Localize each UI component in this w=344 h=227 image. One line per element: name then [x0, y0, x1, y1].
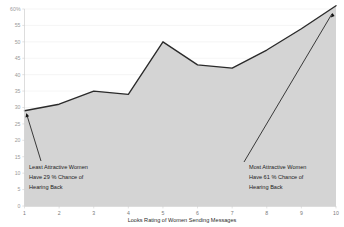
- y-axis-tick-label: 20: [15, 137, 21, 143]
- y-axis-tick-label: 10: [15, 170, 21, 176]
- y-axis-tick-label: 30: [15, 104, 21, 110]
- x-axis-tick-label: 1: [23, 210, 26, 216]
- annotation-left-line-1: Least Attractive Women: [29, 164, 88, 170]
- x-axis-tick-label: 4: [127, 210, 130, 216]
- x-axis-tick-label: 10: [333, 210, 339, 216]
- x-axis-tick-label: 7: [231, 210, 234, 216]
- y-axis-tick-label: 50: [15, 39, 21, 45]
- x-axis-tick-label: 5: [161, 210, 164, 216]
- y-axis-tick-label: 60%: [10, 6, 21, 12]
- y-axis-tick-label: 15: [15, 154, 21, 160]
- annotation-right-line-3: Hearing Back: [249, 184, 283, 190]
- y-axis-tick-label: 25: [15, 121, 21, 127]
- y-axis-tick-label: 35: [15, 88, 21, 94]
- x-axis-tick-label: 6: [196, 210, 199, 216]
- y-axis-tick-label: 0: [18, 203, 21, 209]
- x-axis-tick-label: 8: [265, 210, 268, 216]
- y-axis-tick-label: 45: [15, 55, 21, 61]
- annotation-left-line-3: Hearing Back: [29, 184, 63, 190]
- chart-container: 60%5550454035302520151050 12345678910 Lo…: [0, 0, 344, 227]
- x-axis-tick-label: 3: [92, 210, 95, 216]
- annotation-right-line-1: Most Attractive Women: [249, 164, 306, 170]
- x-axis-tick-label: 9: [300, 210, 303, 216]
- line-area-chart: 60%5550454035302520151050 12345678910 Lo…: [0, 0, 344, 227]
- x-axis-tick-label: 2: [58, 210, 61, 216]
- y-axis-tick-label: 40: [15, 72, 21, 78]
- y-axis-tick-label: 55: [15, 22, 21, 28]
- y-axis-tick-label: 5: [18, 186, 21, 192]
- annotation-right-line-2: Have 61 % Chance of: [249, 174, 304, 180]
- x-axis-title: Looks Rating of Women Sending Messages: [128, 217, 237, 223]
- annotation-left-line-2: Have 29 % Chance of: [29, 174, 84, 180]
